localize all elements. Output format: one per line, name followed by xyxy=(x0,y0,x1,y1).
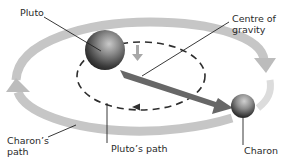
charon-body xyxy=(231,94,255,118)
charons-orbit-right-arc xyxy=(258,80,271,108)
charons-orbit-arrowhead-left xyxy=(6,78,30,92)
centre-of-gravity-label: Centre of gravity xyxy=(232,13,276,35)
charons-path-leader-line xyxy=(48,125,76,137)
pluto-body xyxy=(85,30,125,70)
charons-orbit-arrowhead-right xyxy=(254,58,276,73)
charons-orbit-top-arc xyxy=(16,22,264,80)
centre-of-gravity-leader-line xyxy=(142,22,229,76)
pluto-leader-line xyxy=(44,17,101,51)
centre-of-gravity-label-line2: gravity xyxy=(232,24,276,35)
charons-path-label-line2: path xyxy=(7,146,49,157)
pluto-label: Pluto xyxy=(20,7,44,18)
centre-of-gravity-label-line1: Centre of xyxy=(232,13,276,24)
small-down-arrow-icon xyxy=(132,45,143,61)
charon-label: Charon xyxy=(244,145,278,156)
plutos-path-label: Pluto’s path xyxy=(111,143,168,154)
charons-path-label-line1: Charon’s xyxy=(7,135,49,146)
charons-path-label: Charon’s path xyxy=(7,135,49,157)
